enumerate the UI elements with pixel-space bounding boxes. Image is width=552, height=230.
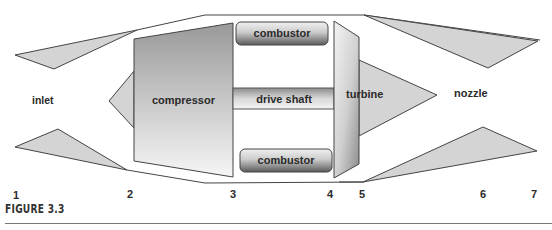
label-compressor: compressor — [152, 94, 216, 106]
label-inlet: inlet — [32, 94, 54, 106]
inlet-lip-bottom — [15, 129, 127, 170]
label-drive-shaft: drive shaft — [256, 93, 312, 105]
label-turbine: turbine — [346, 88, 383, 100]
caption-rule — [5, 223, 552, 224]
figure-caption: FIGURE 3.3 — [5, 202, 65, 216]
label-combustor-top: combustor — [254, 27, 312, 39]
station-7: 7 — [531, 188, 537, 200]
station-6: 6 — [480, 188, 486, 200]
label-nozzle: nozzle — [454, 87, 488, 99]
inlet-spinner — [109, 71, 134, 128]
label-combustor-bottom: combustor — [258, 154, 316, 166]
turbojet-diagram: inlet compressor combustor drive shaft c… — [0, 0, 552, 230]
nozzle-lip-top — [364, 15, 538, 68]
nozzle-lip-bottom — [363, 127, 537, 182]
inlet-lip-top — [15, 30, 137, 69]
station-2: 2 — [127, 188, 133, 200]
station-5: 5 — [359, 188, 365, 200]
station-4: 4 — [327, 188, 334, 200]
station-3: 3 — [230, 188, 236, 200]
station-1: 1 — [13, 189, 19, 201]
